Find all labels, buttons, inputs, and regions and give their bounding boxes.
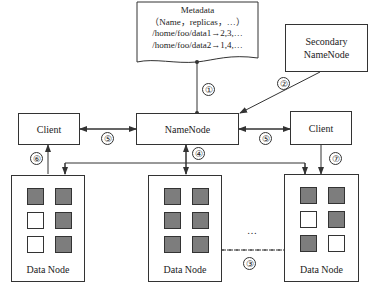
filled-block	[27, 188, 44, 205]
client-right-box: Client	[290, 111, 352, 145]
ellipsis: …	[247, 225, 257, 236]
empty-block	[300, 211, 317, 228]
filled-block	[328, 211, 345, 228]
filled-block	[192, 188, 209, 205]
metadata-entry-1: /home/foo/data1→2,3,…	[137, 28, 258, 40]
datanode-2-label: Data Node	[149, 263, 221, 276]
metadata-entry-2: /home/foo/data2→1,4,…	[137, 40, 258, 52]
namenode-box: NameNode	[136, 113, 239, 145]
metadata-title: Metadata	[137, 5, 258, 17]
empty-block	[27, 212, 44, 229]
secondary-namenode-box: Secondary NameNode	[285, 24, 368, 72]
step-5-right-marker: ⑤	[259, 132, 272, 145]
datanode-1-label: Data Node	[12, 263, 84, 276]
datanode-3-label: Data Node	[285, 263, 358, 276]
step-4-marker: ④	[192, 147, 205, 160]
metadata-document: Metadata （Name，replicas，…） /home/foo/dat…	[137, 2, 258, 64]
step-7-marker: ⑦	[329, 152, 342, 165]
datanode-3: Data Node	[284, 174, 359, 282]
filled-block	[164, 236, 181, 253]
filled-block	[300, 187, 317, 204]
step-5-left-marker: ⑤	[101, 132, 114, 145]
filled-block	[164, 212, 181, 229]
namenode-label: NameNode	[165, 123, 211, 136]
client-right-label: Client	[309, 122, 333, 135]
empty-block	[27, 236, 44, 253]
step-3-marker: ③	[243, 257, 256, 270]
filled-block	[164, 188, 181, 205]
secondary-namenode-line2: NameNode	[304, 48, 350, 61]
filled-block	[55, 212, 72, 229]
empty-block	[328, 235, 345, 252]
datanode-1: Data Node	[11, 175, 85, 282]
filled-block	[55, 188, 72, 205]
step-2-marker: ②	[277, 77, 290, 90]
filled-block	[300, 235, 317, 252]
filled-block	[192, 236, 209, 253]
datanode-2: Data Node	[148, 175, 222, 282]
step-6-marker: ⑥	[30, 152, 43, 165]
filled-block	[55, 236, 72, 253]
secondary-namenode-line1: Secondary	[304, 35, 350, 48]
filled-block	[192, 212, 209, 229]
metadata-fields: （Name，replicas，…）	[137, 17, 258, 29]
filled-block	[328, 187, 345, 204]
step-1-marker: ①	[202, 83, 215, 96]
client-left-label: Client	[37, 123, 61, 136]
client-left-box: Client	[18, 113, 80, 145]
